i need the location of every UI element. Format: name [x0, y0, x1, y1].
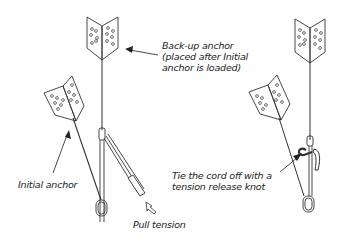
- anchor-diagram: [0, 0, 341, 241]
- initial-anchor-plate-icon: [44, 76, 84, 121]
- pull-cord: [104, 134, 145, 196]
- initial-anchor-plate-right-icon: [249, 75, 290, 120]
- backup-arrow-icon: [125, 46, 158, 55]
- tie-off-label: Tie the cord off with a tension release …: [172, 170, 272, 192]
- carabiner-icon: [96, 200, 107, 216]
- backup-anchor-plate-right-icon: [295, 19, 325, 63]
- pull-arrow-icon: [146, 202, 156, 214]
- initial-arrow-icon: [53, 130, 71, 173]
- backup-anchor-plate-icon: [87, 17, 118, 60]
- pull-tension-label: Pull tension: [133, 219, 186, 230]
- carabiner-right-icon: [303, 196, 314, 212]
- initial-anchor-label: Initial anchor: [18, 179, 77, 190]
- backup-anchor-label: Back-up anchor (placed after Initial anc…: [162, 40, 248, 73]
